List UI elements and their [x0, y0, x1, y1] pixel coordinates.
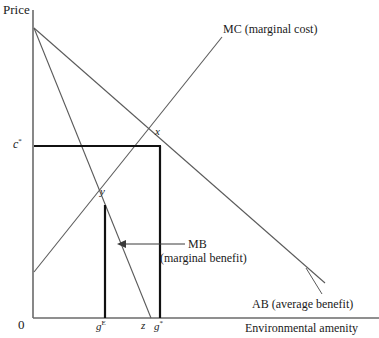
- ab-leader-line: [306, 268, 322, 294]
- c-star-tick-label: c*: [13, 138, 22, 150]
- mb-arrow-head: [117, 240, 126, 248]
- origin-label: 0: [18, 318, 25, 331]
- mb-curve: [34, 28, 151, 318]
- ab-curve-label: AB (average benefit): [252, 298, 353, 310]
- ab-curve: [34, 28, 325, 283]
- x-axis-title: Environmental amenity: [245, 322, 358, 334]
- point-y-label: y: [100, 186, 105, 197]
- mb-curve-sublabel: (marginal benefit): [160, 252, 247, 264]
- g-e-tick-label: gE: [96, 320, 106, 332]
- g-star-superscript: *: [160, 319, 164, 327]
- mb-curve-label: MB: [188, 238, 207, 250]
- y-axis-title: Price: [3, 3, 30, 16]
- c-star-superscript: *: [18, 137, 22, 145]
- g-e-superscript: E: [102, 319, 106, 327]
- economics-diagram: [0, 0, 379, 338]
- mc-curve-label: MC (marginal cost): [223, 23, 317, 35]
- point-x-label: x: [155, 126, 160, 137]
- z-tick-label: z: [141, 320, 145, 331]
- g-star-tick-label: g*: [154, 320, 163, 332]
